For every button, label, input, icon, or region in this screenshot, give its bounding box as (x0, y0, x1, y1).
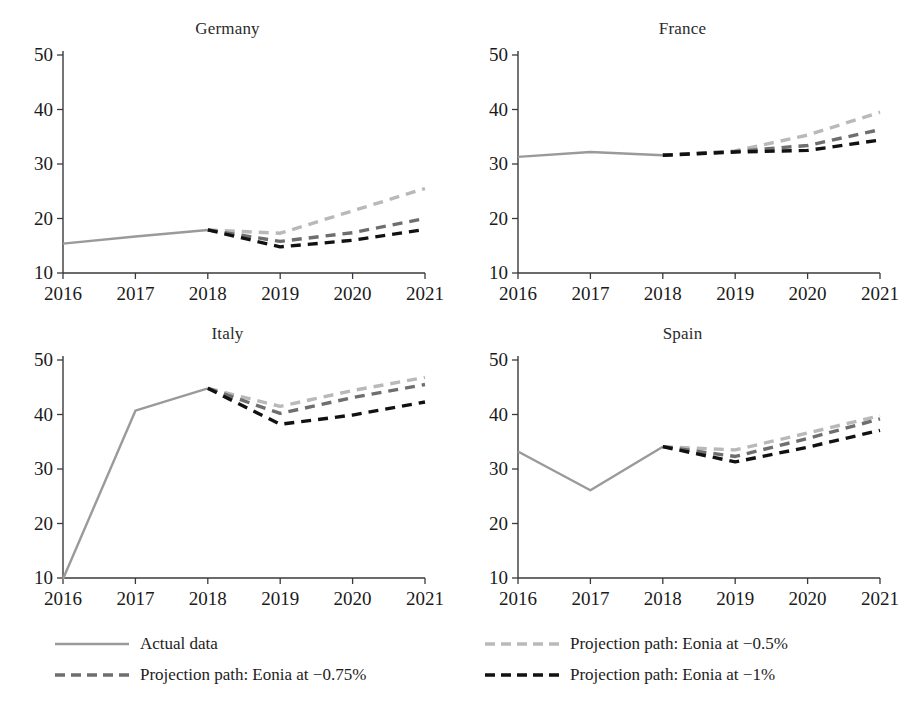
legend-swatch-eonia-05 (485, 637, 559, 651)
y-tick-label: 50 (34, 349, 53, 370)
x-tick-label: 2021 (861, 588, 899, 609)
figure-root: Germany 10203040502016201720182019202020… (0, 0, 910, 701)
series-line (663, 416, 880, 450)
plot-area-spain: 1020304050201620172018201920202021 (455, 320, 910, 630)
y-tick-label: 10 (489, 262, 508, 283)
x-tick-label: 2021 (406, 588, 444, 609)
y-tick-label: 20 (34, 513, 53, 534)
x-tick-label: 2020 (789, 283, 827, 304)
series-line (63, 388, 208, 579)
plot-area-germany: 1020304050201620172018201920202021 (0, 15, 455, 325)
series-line (208, 388, 425, 424)
x-tick-label: 2020 (789, 588, 827, 609)
legend-item-eonia-075: Projection path: Eonia at −0.75% (55, 659, 475, 690)
chart-legend: Actual data Projection path: Eonia at −0… (0, 628, 910, 701)
legend-swatch-actual-data (55, 637, 129, 651)
series-line (518, 152, 663, 157)
x-tick-label: 2018 (644, 588, 682, 609)
legend-label-eonia-075: Projection path: Eonia at −0.75% (140, 665, 366, 685)
legend-column-right: Projection path: Eonia at −0.5% Projecti… (485, 628, 905, 690)
y-tick-label: 50 (489, 349, 508, 370)
y-tick-label: 30 (489, 458, 508, 479)
legend-item-eonia-1: Projection path: Eonia at −1% (485, 659, 905, 690)
x-tick-label: 2016 (44, 283, 82, 304)
legend-label-actual-data: Actual data (140, 634, 218, 654)
y-tick-label: 20 (489, 208, 508, 229)
x-tick-label: 2021 (861, 283, 899, 304)
y-tick-label: 30 (489, 153, 508, 174)
chart-panel-france: France 102030405020162017201820192020202… (455, 15, 910, 325)
legend-item-eonia-05: Projection path: Eonia at −0.5% (485, 628, 905, 659)
x-tick-label: 2017 (571, 588, 609, 609)
y-tick-label: 20 (489, 513, 508, 534)
y-tick-label: 20 (34, 208, 53, 229)
x-tick-label: 2017 (116, 283, 154, 304)
x-tick-label: 2016 (499, 588, 537, 609)
chart-panel-germany: Germany 10203040502016201720182019202020… (0, 15, 455, 325)
y-tick-label: 10 (489, 567, 508, 588)
x-tick-label: 2017 (116, 588, 154, 609)
legend-swatch-eonia-1 (485, 668, 559, 682)
x-tick-label: 2018 (189, 588, 227, 609)
x-tick-label: 2019 (716, 283, 754, 304)
legend-label-eonia-05: Projection path: Eonia at −0.5% (570, 634, 788, 654)
plot-area-france: 1020304050201620172018201920202021 (455, 15, 910, 325)
series-line (518, 447, 663, 491)
y-tick-label: 40 (34, 99, 53, 120)
series-line (63, 230, 208, 244)
x-tick-label: 2017 (571, 283, 609, 304)
y-tick-label: 50 (34, 44, 53, 65)
y-tick-label: 10 (34, 567, 53, 588)
y-tick-label: 10 (34, 262, 53, 283)
y-tick-label: 50 (489, 44, 508, 65)
y-tick-label: 40 (34, 404, 53, 425)
plot-area-italy: 1020304050201620172018201920202021 (0, 320, 455, 630)
x-tick-label: 2021 (406, 283, 444, 304)
x-tick-label: 2019 (261, 283, 299, 304)
x-tick-label: 2016 (44, 588, 82, 609)
y-tick-label: 40 (489, 99, 508, 120)
x-tick-label: 2019 (261, 588, 299, 609)
x-tick-label: 2018 (189, 283, 227, 304)
y-tick-label: 30 (34, 458, 53, 479)
x-tick-label: 2018 (644, 283, 682, 304)
x-tick-label: 2019 (716, 588, 754, 609)
legend-item-actual-data: Actual data (55, 628, 475, 659)
x-tick-label: 2020 (334, 283, 372, 304)
y-tick-label: 40 (489, 404, 508, 425)
chart-panel-italy: Italy 1020304050201620172018201920202021 (0, 320, 455, 630)
x-tick-label: 2016 (499, 283, 537, 304)
y-tick-label: 30 (34, 153, 53, 174)
legend-column-left: Actual data Projection path: Eonia at −0… (55, 628, 475, 690)
series-line (208, 189, 425, 234)
legend-swatch-eonia-075 (55, 668, 129, 682)
legend-label-eonia-1: Projection path: Eonia at −1% (570, 665, 775, 685)
x-tick-label: 2020 (334, 588, 372, 609)
chart-panel-spain: Spain 1020304050201620172018201920202021 (455, 320, 910, 630)
